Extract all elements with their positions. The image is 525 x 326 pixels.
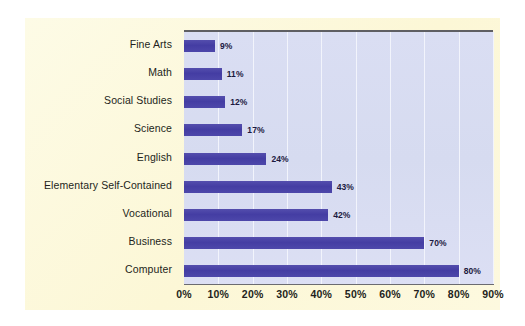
bar-value-label: 9% bbox=[220, 39, 233, 53]
bar-value-label: 12% bbox=[230, 95, 247, 109]
bar-row: 9% bbox=[184, 40, 493, 52]
gridline bbox=[493, 32, 494, 285]
bar bbox=[184, 209, 328, 221]
category-label: Science bbox=[134, 121, 172, 135]
bar-row: 42% bbox=[184, 209, 493, 221]
category-label: Computer bbox=[125, 262, 172, 276]
bar bbox=[184, 96, 225, 108]
bar-row: 43% bbox=[184, 181, 493, 193]
category-axis-labels: Fine ArtsMathSocial StudiesScienceEnglis… bbox=[25, 30, 178, 283]
chart-panel: Fine ArtsMathSocial StudiesScienceEnglis… bbox=[25, 18, 500, 310]
bar-value-label: 17% bbox=[247, 123, 264, 137]
bar-row: 12% bbox=[184, 96, 493, 108]
bar-row: 11% bbox=[184, 68, 493, 80]
bar bbox=[184, 265, 459, 277]
bar-row: 80% bbox=[184, 265, 493, 277]
category-label: Vocational bbox=[123, 206, 172, 220]
category-label: Business bbox=[129, 234, 172, 248]
bar-value-label: 43% bbox=[337, 180, 354, 194]
bar-value-label: 42% bbox=[333, 208, 350, 222]
bar bbox=[184, 237, 424, 249]
bar-row: 17% bbox=[184, 124, 493, 136]
bar bbox=[184, 181, 332, 193]
plot-area: 9%11%12%17%24%43%42%70%80% bbox=[184, 30, 493, 285]
bar bbox=[184, 68, 222, 80]
bar-value-label: 24% bbox=[271, 152, 288, 166]
bar-value-label: 11% bbox=[227, 67, 244, 81]
x-tick-label: 90% bbox=[473, 288, 513, 300]
bar bbox=[184, 124, 242, 136]
category-label: Fine Arts bbox=[130, 37, 172, 51]
x-axis-tick-labels: 0%10%20%30%40%50%60%70%80%90% bbox=[184, 288, 494, 306]
bar bbox=[184, 153, 266, 165]
x-axis-line bbox=[184, 284, 494, 285]
bar-chart-figure: Fine ArtsMathSocial StudiesScienceEnglis… bbox=[25, 18, 500, 310]
bar bbox=[184, 40, 215, 52]
category-label: Social Studies bbox=[104, 93, 172, 107]
category-label: English bbox=[137, 150, 172, 164]
bar-value-label: 80% bbox=[464, 264, 481, 278]
bar-row: 24% bbox=[184, 153, 493, 165]
bar-row: 70% bbox=[184, 237, 493, 249]
category-label: Math bbox=[148, 65, 172, 79]
category-label: Elementary Self-Contained bbox=[44, 178, 172, 192]
bar-value-label: 70% bbox=[429, 236, 446, 250]
